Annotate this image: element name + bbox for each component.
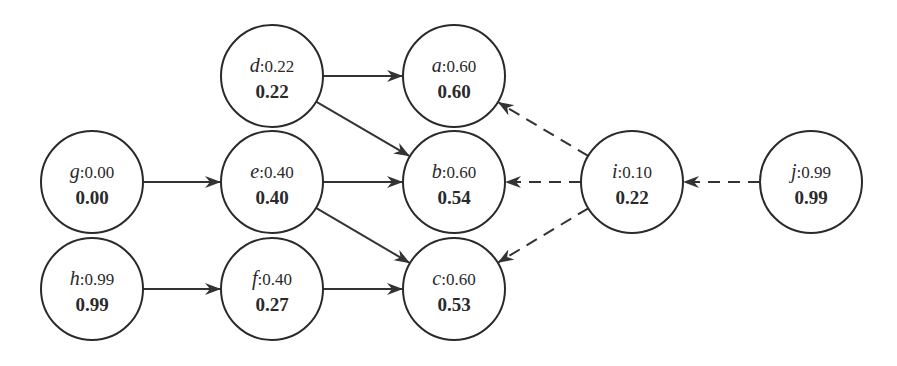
node-j: j:0.990.99: [760, 131, 862, 233]
node-prior-label: d:0.22: [250, 54, 294, 76]
node-prior: :0.00: [80, 163, 114, 182]
node-value: 0.60: [437, 81, 470, 102]
node-f: f:0.400.27: [221, 238, 323, 340]
node-name: e: [250, 160, 259, 182]
node-prior: :0.60: [442, 163, 476, 182]
node-a: a:0.600.60: [403, 25, 505, 127]
node-value: 0.54: [437, 187, 471, 208]
node-prior: :0.22: [260, 57, 294, 76]
node-value: 0.00: [75, 187, 108, 208]
node-circle: [403, 131, 505, 233]
node-prior-label: h:0.99: [70, 267, 114, 289]
node-prior: :0.60: [442, 57, 476, 76]
node-circle: [221, 131, 323, 233]
node-prior-label: j:0.99: [788, 160, 831, 183]
edge-d-to-b: [316, 102, 409, 156]
edge-i-to-c: [499, 208, 589, 262]
node-b: b:0.600.54: [403, 131, 505, 233]
node-prior-label: f:0.40: [252, 267, 292, 290]
node-prior: :0.99: [797, 163, 831, 182]
node-value: 0.53: [437, 294, 470, 315]
node-prior-label: e:0.40: [250, 160, 293, 182]
node-name: a: [432, 54, 442, 76]
node-name: h: [70, 267, 80, 289]
node-circle: [221, 238, 323, 340]
node-circle: [760, 131, 862, 233]
node-g: g:0.000.00: [41, 131, 143, 233]
node-circle: [403, 238, 505, 340]
node-value: 0.99: [75, 294, 108, 315]
node-prior: :0.60: [441, 270, 475, 289]
node-h: h:0.990.99: [41, 238, 143, 340]
node-circle: [41, 131, 143, 233]
node-name: g: [70, 160, 80, 183]
edge-i-to-a: [499, 103, 589, 156]
node-prior-label: g:0.00: [70, 160, 114, 183]
node-prior-label: c:0.60: [432, 267, 475, 289]
node-prior-label: i:0.10: [612, 160, 652, 182]
node-prior-label: b:0.60: [432, 160, 476, 182]
node-value: 0.27: [255, 294, 289, 315]
graph-diagram: d:0.220.22a:0.600.60g:0.000.00e:0.400.40…: [0, 0, 897, 366]
node-prior: :0.99: [80, 270, 114, 289]
edge-e-to-c: [316, 208, 409, 263]
node-prior: :0.40: [259, 163, 293, 182]
node-i: i:0.100.22: [581, 131, 683, 233]
node-value: 0.22: [255, 81, 288, 102]
node-circle: [581, 131, 683, 233]
node-prior: :0.10: [618, 163, 652, 182]
node-circle: [403, 25, 505, 127]
node-prior: :0.40: [258, 270, 292, 289]
node-circle: [41, 238, 143, 340]
node-c: c:0.600.53: [403, 238, 505, 340]
node-e: e:0.400.40: [221, 131, 323, 233]
node-d: d:0.220.22: [221, 25, 323, 127]
node-prior-label: a:0.60: [432, 54, 476, 76]
node-circle: [221, 25, 323, 127]
node-name: b: [432, 160, 442, 182]
node-value: 0.40: [255, 187, 288, 208]
node-value: 0.22: [615, 187, 648, 208]
node-value: 0.99: [794, 187, 827, 208]
node-name: c: [432, 267, 441, 289]
